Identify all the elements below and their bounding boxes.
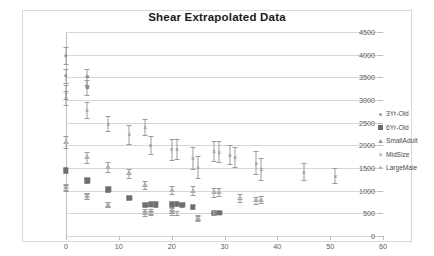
data-point-midsize: × — [127, 131, 131, 138]
error-bar-cap — [106, 172, 111, 173]
error-bar-cap — [64, 69, 69, 70]
data-point-midsize: × — [170, 146, 174, 153]
error-bar-cap — [64, 64, 69, 65]
error-bar-cap — [64, 105, 69, 106]
error-bar-cap — [64, 85, 69, 86]
y-tick — [378, 55, 383, 56]
data-point-smalladult — [190, 188, 196, 193]
data-point-midsize: × — [254, 159, 258, 166]
error-bar-cap — [254, 151, 259, 152]
error-bar-cap — [211, 141, 216, 142]
error-bar-cap — [85, 95, 90, 96]
y-tick-label: 4000 — [359, 50, 375, 59]
gridline — [66, 77, 383, 78]
chart-frame: Shear Extrapolated Data 0500100015002000… — [22, 10, 412, 242]
data-point-midsize: × — [191, 155, 195, 162]
error-bar-cap — [190, 147, 195, 148]
plot-area: 050010001500200025003000350040004500 010… — [66, 32, 383, 236]
error-bar-cap — [196, 156, 201, 157]
triangle-marker-icon: ▲ — [375, 137, 386, 144]
error-bar-cap — [169, 194, 174, 195]
x-tick-label: 40 — [273, 242, 281, 251]
legend-item-6yr-old[interactable]: 6Yr-Old — [375, 121, 434, 135]
error-bar-cap — [233, 167, 238, 168]
data-point-smalladult — [216, 189, 222, 194]
gridline — [66, 191, 383, 192]
error-bar-cap — [211, 197, 216, 198]
legend-label: SmallAdult — [386, 137, 418, 144]
data-point-largemale: + — [143, 210, 147, 217]
error-bar-cap — [333, 168, 338, 169]
x-tick-label: 20 — [168, 242, 176, 251]
error-bar-cap — [301, 163, 306, 164]
error-bar-cap — [64, 47, 69, 48]
data-point-smalladult — [237, 195, 243, 200]
data-point-smalladult — [63, 139, 69, 144]
data-point-midsize: × — [333, 172, 337, 179]
data-point-6yr-old — [180, 202, 185, 207]
data-point-midsize: × — [302, 168, 306, 175]
data-point-largemale: + — [212, 210, 216, 217]
error-bar-cap — [64, 91, 69, 92]
gridline — [66, 145, 383, 146]
y-tick-label: 3500 — [359, 73, 375, 82]
data-point-midsize: × — [196, 164, 200, 171]
data-point-smalladult — [258, 197, 264, 202]
data-point-midsize: × — [64, 95, 68, 102]
error-bar-cap — [174, 139, 179, 140]
error-bar-cap — [85, 152, 90, 153]
error-bar-cap — [301, 180, 306, 181]
error-bar-cap — [143, 135, 148, 136]
data-point-smalladult — [126, 170, 132, 175]
error-bar-cap — [169, 160, 174, 161]
legend-item-midsize[interactable]: ×MidSize — [375, 148, 434, 162]
data-point-smalladult — [142, 182, 148, 187]
error-bar-cap — [259, 180, 264, 181]
error-bar-cap — [227, 164, 232, 165]
data-point-largemale: + — [85, 193, 89, 200]
data-point-smalladult — [105, 164, 111, 169]
data-point-smalladult — [169, 187, 175, 192]
error-bar-cap — [143, 189, 148, 190]
data-point-midsize: × — [212, 147, 216, 154]
data-point-largemale: + — [64, 184, 68, 191]
x-tick — [383, 236, 384, 240]
error-bar-cap — [238, 202, 243, 203]
x-tick-label: 30 — [221, 242, 229, 251]
gridline — [66, 55, 383, 56]
error-bar-cap — [85, 80, 90, 81]
error-bar-cap — [148, 136, 153, 137]
error-bar-cap — [259, 203, 264, 204]
legend-label: 6Yr-Old — [386, 124, 409, 131]
y-tick — [378, 77, 383, 78]
error-bar-cap — [190, 169, 195, 170]
legend-item-smalladult[interactable]: ▲SmallAdult — [375, 134, 434, 148]
y-tick-label: 500 — [363, 209, 375, 218]
y-tick-label: 3000 — [359, 96, 375, 105]
error-bar-cap — [148, 154, 153, 155]
data-point-3yr-old — [64, 54, 67, 57]
data-point-6yr-old — [63, 168, 68, 173]
data-point-midsize: × — [217, 148, 221, 155]
data-point-smalladult — [84, 154, 90, 159]
error-bar-cap — [227, 145, 232, 146]
plus-marker-icon: + — [375, 164, 386, 171]
error-bar-cap — [174, 159, 179, 160]
error-bar-cap — [217, 162, 222, 163]
error-bar-cap — [85, 163, 90, 164]
gridline — [66, 100, 383, 101]
y-tick — [378, 213, 383, 214]
legend-item-largemale[interactable]: +LargeMale — [375, 161, 434, 175]
legend-item-3yr-old[interactable]: 3Yr-Old — [375, 107, 434, 121]
data-point-largemale: + — [106, 201, 110, 208]
y-tick-label: 4500 — [359, 28, 375, 37]
data-point-midsize: × — [175, 145, 179, 152]
data-point-midsize: × — [148, 141, 152, 148]
data-point-6yr-old — [217, 210, 222, 215]
x-tick-label: 0 — [64, 242, 68, 251]
x-tick — [330, 236, 331, 240]
error-bar-cap — [217, 141, 222, 142]
x-tick-label: 10 — [115, 242, 123, 251]
error-bar-cap — [211, 161, 216, 162]
y-tick-label: 2000 — [359, 141, 375, 150]
